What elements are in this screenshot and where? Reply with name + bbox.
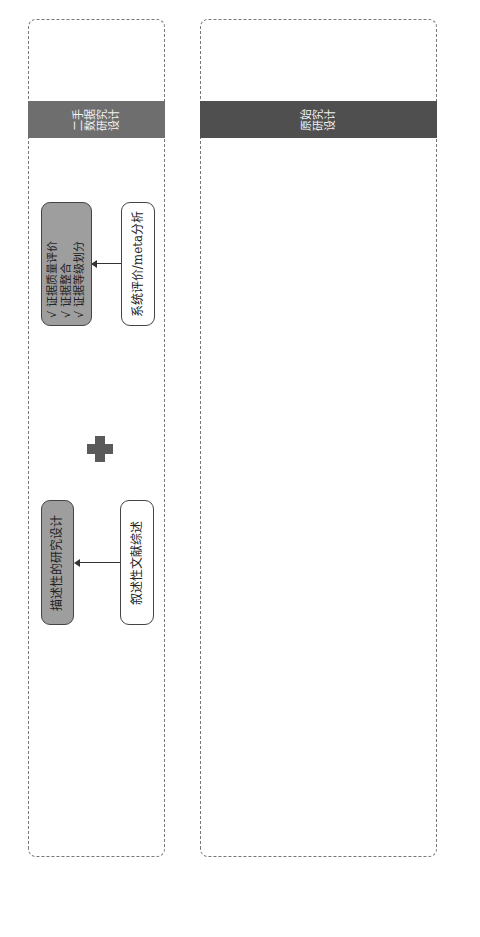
primary-research-panel	[200, 19, 437, 857]
descriptive-design-node: 描述性的研究设计	[41, 500, 74, 625]
evidence-item: √ 证据等级划分	[73, 210, 87, 318]
secondary-data-band: 二手 数据 研究 设计	[28, 101, 165, 138]
evidence-item: √ 证据整合	[60, 210, 74, 318]
arrow-head-icon	[91, 260, 97, 268]
connector-line	[76, 562, 120, 563]
plus-icon	[87, 436, 113, 462]
systematic-review-node: 系统评价/meta分析	[121, 202, 155, 326]
evidence-synthesis-box: √ 证据质量评价 √ 证据整合 √ 证据等级划分	[41, 202, 92, 326]
narrative-review-node: 叙述性文献综述	[120, 500, 154, 625]
connector-line	[94, 263, 121, 264]
arrow-head-icon	[74, 559, 80, 567]
diagram-canvas: 二手 数据 研究 设计 √ 证据质量评价 √ 证据整合 √ 证据等级划分 系统评…	[0, 0, 480, 937]
primary-research-band: 原始 研究 设计	[200, 101, 437, 138]
diagram-stage: 二手 数据 研究 设计 √ 证据质量评价 √ 证据整合 √ 证据等级划分 系统评…	[0, 0, 480, 937]
secondary-band-label: 二手 数据 研究 设计	[73, 109, 121, 131]
evidence-item: √ 证据质量评价	[46, 210, 60, 318]
primary-band-label: 原始 研究 设计	[301, 109, 337, 131]
